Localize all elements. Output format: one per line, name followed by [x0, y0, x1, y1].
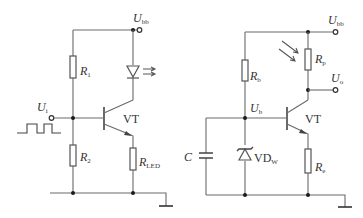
right-transistor-label: VT	[305, 112, 322, 126]
left-input-terminal	[49, 116, 54, 121]
left-ground-wire	[50, 193, 166, 206]
right-supply-label: Ubb	[328, 13, 344, 28]
light-arrows-icon	[279, 41, 298, 61]
right-output-label: Uo	[331, 71, 344, 86]
left-supply-terminal	[137, 28, 142, 33]
left-rled-label: RLED	[138, 155, 160, 170]
right-re-resistor	[305, 149, 311, 173]
left-r2-resistor	[70, 145, 76, 166]
right-rp-resistor	[305, 49, 311, 70]
left-ground-junction-1	[71, 191, 75, 195]
left-base-junction	[71, 116, 75, 120]
right-rb-label: Rb	[249, 69, 261, 84]
right-capacitor-label: C	[184, 150, 193, 164]
right-supply-terminal	[333, 30, 338, 35]
square-wave-icon	[17, 124, 61, 133]
right-base-label: Ub	[250, 101, 263, 116]
left-supply-label: Ubb	[133, 11, 149, 26]
circuit-diagram: Ubb R1 R2 Ui VT	[0, 0, 363, 218]
left-r2-label: R2	[79, 150, 91, 165]
left-r1-label: R1	[79, 64, 91, 79]
left-r1-resistor	[70, 56, 76, 78]
zener-diode-icon	[237, 147, 253, 160]
capacitor-icon	[199, 153, 213, 158]
right-output-terminal	[333, 88, 338, 93]
left-circuit: Ubb R1 R2 Ui VT	[17, 11, 173, 206]
left-transistor-label: VT	[123, 112, 140, 126]
left-ground-junction-2	[131, 191, 135, 195]
right-zener-label: VDW	[254, 151, 278, 166]
left-rled-resistor	[130, 148, 136, 170]
right-base-junction	[243, 116, 247, 120]
right-re-label: Re	[314, 160, 325, 175]
led-icon	[127, 66, 155, 78]
right-rb-resistor	[242, 60, 248, 81]
left-input-label: Ui	[37, 100, 48, 115]
right-ground-junction-1	[243, 193, 247, 197]
right-circuit: Ubb Rb Rp Uo Ub C VDW	[184, 13, 352, 207]
right-rp-label: Rp	[314, 52, 326, 67]
right-ground-junction-2	[306, 193, 310, 197]
right-ground-wire	[206, 195, 345, 207]
